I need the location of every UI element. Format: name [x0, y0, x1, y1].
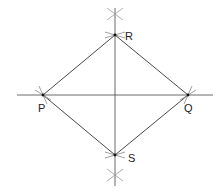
edge-qs [115, 95, 188, 155]
vertex-point-s [114, 154, 117, 157]
label-p: P [38, 102, 45, 114]
edge-pr [43, 35, 115, 95]
edge-rq [115, 35, 188, 95]
label-q: Q [184, 102, 193, 114]
label-r: R [125, 30, 133, 42]
edge-sp [43, 95, 115, 155]
rhombus-construction-diagram: R P Q S [0, 0, 222, 194]
vertex-point-q [187, 94, 190, 97]
vertex-point-r [114, 34, 117, 37]
label-s: S [128, 152, 135, 164]
vertex-point-p [42, 94, 45, 97]
